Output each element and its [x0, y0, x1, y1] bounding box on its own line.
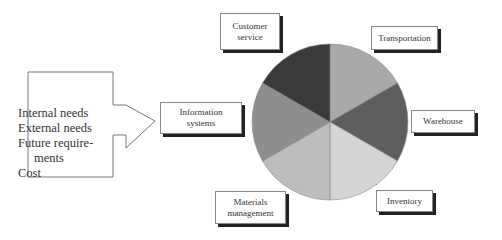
needs-item: Future require- [18, 136, 93, 151]
label-information-systems: Information systems [160, 102, 242, 134]
label-text: Customer [233, 21, 268, 32]
label-text: systems [187, 118, 216, 129]
needs-item: Internal needs [18, 106, 93, 121]
label-text: Inventory [387, 196, 422, 207]
label-text: service [237, 32, 262, 43]
label-text: Transportation [378, 33, 431, 44]
pie-chart [252, 44, 408, 200]
label-customer-service: Customer service [220, 13, 280, 50]
needs-item: Cost [18, 166, 93, 181]
label-inventory: Inventory [376, 190, 433, 212]
needs-item: External needs [18, 121, 93, 136]
label-text: Information [180, 107, 223, 118]
label-warehouse: Warehouse [411, 110, 475, 133]
input-needs-list: Internal needs External needs Future req… [18, 106, 93, 181]
label-text: management [228, 208, 274, 219]
label-text: Warehouse [423, 116, 463, 127]
needs-item: ments [18, 151, 93, 166]
label-transportation: Transportation [371, 26, 438, 50]
label-text: Materials [234, 197, 268, 208]
label-materials-management: Materials management [215, 191, 286, 224]
